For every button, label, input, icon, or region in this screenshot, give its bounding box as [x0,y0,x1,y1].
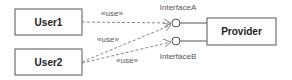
interface-b-label: InterfaceB [160,52,196,61]
class-user1[interactable]: User1 [15,9,82,35]
interface-a[interactable]: InterfaceA [160,3,207,27]
dependency-user2-interfaceb[interactable]: «use» [82,39,171,65]
interface-a-label: InterfaceA [160,3,197,12]
stereotype-label: «use» [101,9,123,18]
class-provider-label: Provider [221,26,262,37]
class-user2-label: User2 [35,57,63,68]
dependency-user1-interfacea[interactable]: «use» [82,9,171,27]
stereotype-label: «use» [116,56,138,65]
stereotype-label: «use» [97,35,119,44]
class-user1-label: User1 [35,17,63,28]
class-user2[interactable]: User2 [15,49,82,75]
uml-diagram: User1 User2 Provider InterfaceA Interfac… [0,0,292,80]
class-provider[interactable]: Provider [207,18,276,45]
